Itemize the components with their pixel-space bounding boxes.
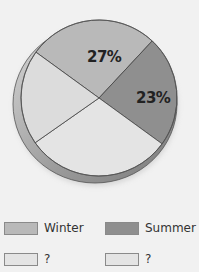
legend-label-winter: Winter xyxy=(44,221,84,235)
legend-swatch-winter xyxy=(4,222,38,235)
winter-percent-label: 27% xyxy=(87,48,121,66)
legend-label-summer: Summer xyxy=(145,221,196,235)
chart-legend: Winter Summer ? ? xyxy=(0,200,199,272)
legend-label-unknown-1: ? xyxy=(44,252,50,266)
legend-item-winter: Winter xyxy=(4,221,84,235)
summer-percent-label: 23% xyxy=(136,89,170,107)
legend-item-summer: Summer xyxy=(105,221,196,235)
legend-swatch-unknown-1 xyxy=(4,253,38,266)
legend-swatch-summer xyxy=(105,222,139,235)
legend-swatch-unknown-2 xyxy=(105,253,139,266)
legend-label-unknown-2: ? xyxy=(145,252,151,266)
legend-item-unknown-2: ? xyxy=(105,252,151,266)
legend-item-unknown-1: ? xyxy=(4,252,50,266)
